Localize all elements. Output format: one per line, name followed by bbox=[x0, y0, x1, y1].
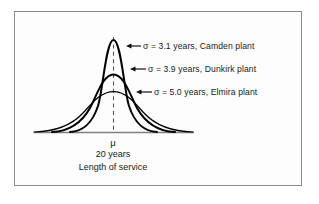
figure-frame: σ = 3.1 years, Camden plant σ = 3.9 year… bbox=[14, 11, 302, 186]
annotation-elmira: σ = 5.0 years, Elmira plant bbox=[154, 88, 257, 97]
normal-distribution-chart bbox=[15, 12, 303, 187]
annotation-arrow-elmira bbox=[136, 90, 152, 95]
annotation-dunkirk: σ = 3.9 years, Dunkirk plant bbox=[148, 65, 256, 74]
x-axis-title: Length of service bbox=[33, 163, 193, 172]
annotation-arrow-dunkirk bbox=[130, 67, 146, 72]
annotation-arrow-camden bbox=[126, 44, 141, 49]
mean-value-label: 20 years bbox=[33, 150, 193, 159]
mean-symbol-label: μ bbox=[33, 138, 193, 148]
annotation-camden: σ = 3.1 years, Camden plant bbox=[143, 42, 254, 51]
